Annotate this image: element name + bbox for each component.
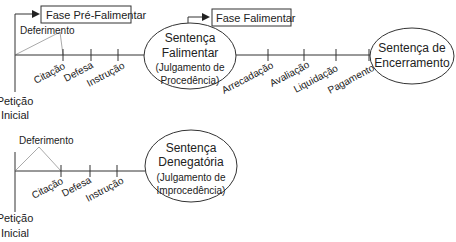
arrow-head-icon — [202, 13, 210, 21]
deferimento-label-2: Deferimento — [19, 135, 74, 146]
phase-fal-label: Fase Falimentar — [216, 12, 296, 24]
step-citacao: Citação — [32, 60, 67, 86]
sentenca-falimentar-line2: Falimentar — [162, 46, 219, 60]
sentenca-falimentar-line4: Procedência) — [161, 75, 220, 86]
peticao-label-2-1: Petição — [0, 212, 33, 224]
peticao-label-2-2: Inicial — [1, 227, 29, 239]
sentenca-denegatoria-line4: Improcedência) — [157, 185, 226, 196]
diagram-canvas: Fase Pré-Falimentar Fase Falimentar Defe… — [0, 0, 456, 242]
sentenca-encerramento-line1: Sentença de — [378, 41, 446, 55]
deferimento-label: Deferimento — [20, 25, 75, 36]
sentenca-encerramento-line2: Encerramento — [374, 56, 450, 70]
phase-pre-label: Fase Pré-Falimentar — [46, 9, 147, 21]
sentenca-falimentar-line3: (Julgamento de — [156, 62, 225, 73]
peticao-label-2: Inicial — [1, 109, 29, 121]
sentenca-denegatoria-line1: Sentença — [166, 141, 217, 155]
sentenca-denegatoria-line2: Denegatória — [158, 155, 224, 169]
step-citacao-2: Citação — [30, 175, 65, 201]
arrow-line-fal — [188, 17, 203, 23]
arrow-head-icon — [32, 10, 40, 18]
sentenca-falimentar-line1: Sentença — [165, 31, 216, 45]
deferimento-triangle-2 — [15, 147, 61, 171]
peticao-label-1: Petição — [0, 95, 33, 107]
sentenca-denegatoria-line3: (Julgamento de — [157, 172, 226, 183]
